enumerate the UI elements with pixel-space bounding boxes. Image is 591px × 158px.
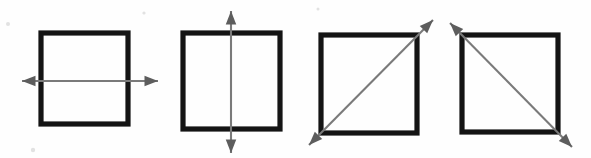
scan-speck (31, 148, 35, 152)
scan-speck (317, 8, 320, 11)
symmetry-figure (0, 0, 591, 158)
scan-speck (6, 22, 10, 26)
symmetry-figure-canvas (0, 0, 591, 158)
scan-speck (142, 11, 145, 14)
